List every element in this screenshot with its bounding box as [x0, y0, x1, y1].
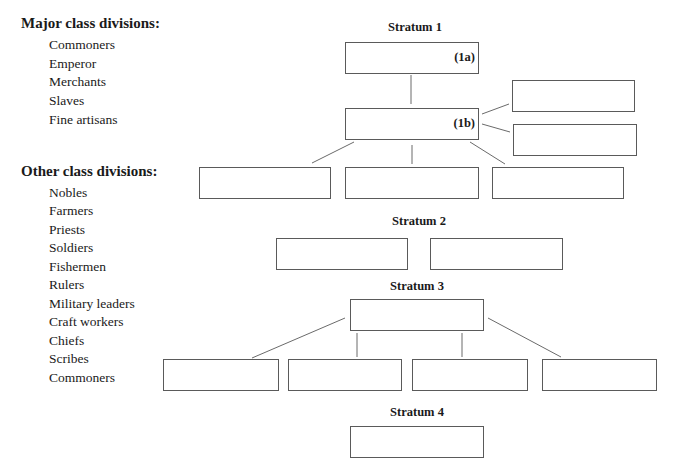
- other-item: Rulers: [49, 277, 84, 293]
- major-item: Merchants: [49, 74, 106, 90]
- box-1a[interactable]: (1a): [345, 42, 479, 74]
- other-item: Scribes: [49, 351, 89, 367]
- other-item: Priests: [49, 222, 85, 238]
- other-item: Soldiers: [49, 240, 93, 256]
- connector-lines: [0, 0, 674, 473]
- box-1b-child-left[interactable]: [199, 167, 331, 199]
- box-stratum-4[interactable]: [350, 426, 484, 458]
- box-1b-right-top[interactable]: [512, 80, 635, 112]
- other-item: Nobles: [49, 185, 87, 201]
- other-item: Chiefs: [49, 333, 84, 349]
- stratum-2-label: Stratum 2: [349, 214, 489, 229]
- major-item: Emperor: [49, 56, 96, 72]
- box-1b-right-bottom[interactable]: [513, 124, 637, 156]
- major-item: Fine artisans: [49, 112, 118, 128]
- box-stratum-3-child-1[interactable]: [163, 359, 279, 391]
- box-1b[interactable]: (1b): [345, 108, 479, 140]
- major-item: Slaves: [49, 93, 84, 109]
- major-item: Commoners: [49, 37, 115, 53]
- other-class-heading: Other class divisions:: [21, 163, 157, 180]
- tag-1a: (1a): [454, 50, 475, 65]
- box-stratum-2-left[interactable]: [276, 238, 408, 270]
- box-1b-child-center[interactable]: [345, 167, 479, 199]
- other-item: Commoners: [49, 370, 115, 386]
- stratum-1-label: Stratum 1: [345, 20, 485, 35]
- box-stratum-3-top[interactable]: [350, 299, 484, 331]
- stratum-4-label: Stratum 4: [347, 405, 487, 420]
- box-stratum-3-child-3[interactable]: [412, 359, 528, 391]
- other-item: Military leaders: [49, 296, 135, 312]
- box-stratum-2-right[interactable]: [430, 238, 563, 270]
- tag-1b: (1b): [453, 116, 475, 131]
- other-item: Farmers: [49, 203, 93, 219]
- box-1b-child-right[interactable]: [492, 167, 624, 199]
- other-item: Craft workers: [49, 314, 124, 330]
- box-stratum-3-child-2[interactable]: [288, 359, 402, 391]
- box-stratum-3-child-4[interactable]: [542, 359, 657, 391]
- major-class-heading: Major class divisions:: [21, 15, 160, 32]
- stratum-3-label: Stratum 3: [347, 279, 487, 294]
- other-item: Fishermen: [49, 259, 106, 275]
